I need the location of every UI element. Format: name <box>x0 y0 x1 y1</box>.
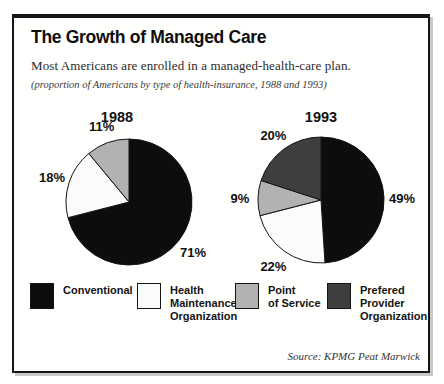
legend-item-point-of-service: Point of Service <box>235 283 321 310</box>
pie-percent-label-health-maintenance-organization: 18% <box>39 170 65 185</box>
pie-percent-label-health-maintenance-organization: 22% <box>260 258 286 273</box>
legend-item-prefered-provider-organization: Prefered Provider Organization <box>327 283 427 323</box>
legend-label-point-of-service: Point of Service <box>268 283 321 310</box>
source-credit: Source: KPMG Peat Marwick <box>288 350 420 362</box>
pie-percent-label-point-of-service: 9% <box>231 190 250 205</box>
legend-label-conventional: Conventional <box>63 283 133 297</box>
legend-swatch-prefered-provider-organization <box>327 283 351 309</box>
legend-swatch-point-of-service <box>235 283 259 309</box>
legend-item-health-maintenance-organization: Health Maintenance Organization <box>137 283 237 323</box>
pie-percent-label-prefered-provider-organization: 20% <box>260 127 286 142</box>
figure-canvas: The Growth of Managed Care Most American… <box>0 0 444 384</box>
chart-title: The Growth of Managed Care <box>31 27 266 48</box>
pie-slice-conventional <box>321 137 384 263</box>
pie-percent-label-conventional: 71% <box>180 244 206 259</box>
legend-item-conventional: Conventional <box>30 283 133 309</box>
pie-chart-1988: 71%18%11% <box>54 127 204 277</box>
pie-year-label-1993: 1993 <box>246 109 396 125</box>
chart-subtitle: Most Americans are enrolled in a managed… <box>31 58 351 74</box>
chart-frame: The Growth of Managed Care Most American… <box>12 14 430 373</box>
legend-swatch-conventional <box>30 283 54 309</box>
legend-label-health-maintenance-organization: Health Maintenance Organization <box>170 283 237 323</box>
legend-label-prefered-provider-organization: Prefered Provider Organization <box>360 283 427 323</box>
chart-note: (proportion of Americans by type of heal… <box>31 79 327 90</box>
pie-percent-label-point-of-service: 11% <box>89 118 114 133</box>
pie-chart-1993: 49%22%9%20% <box>246 125 396 275</box>
pie-percent-label-conventional: 49% <box>389 190 415 205</box>
legend-swatch-health-maintenance-organization <box>137 283 161 309</box>
pie-year-label-1988: 1988 <box>42 109 192 125</box>
pie-svg-1993 <box>246 125 396 275</box>
